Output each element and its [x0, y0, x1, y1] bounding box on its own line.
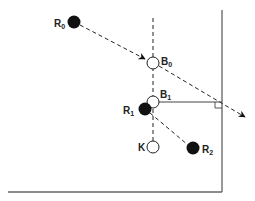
node-r1-filled [139, 103, 152, 116]
node-k-open [147, 141, 159, 153]
label-r1: R1 [123, 105, 134, 117]
label-r0: R0 [54, 18, 65, 30]
label-b1: B1 [160, 89, 171, 101]
edge-b0-exit [159, 66, 245, 117]
label-r2: R2 [202, 144, 213, 156]
diagram-canvas: R0 B0 B1 R1 K R2 [0, 0, 255, 201]
label-k: K [138, 142, 146, 153]
node-r2-filled [187, 142, 200, 155]
edge-r0-b0 [80, 25, 145, 59]
edge-r1-r2 [150, 113, 188, 145]
label-b0: B0 [161, 56, 172, 68]
node-r0-filled [68, 16, 81, 29]
node-b0-open [147, 57, 159, 69]
